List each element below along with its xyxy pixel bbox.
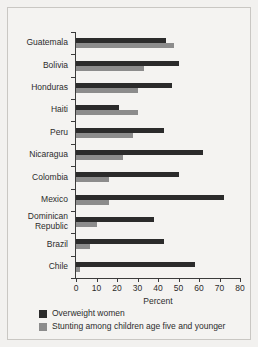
bar-group: Brazil <box>76 233 240 255</box>
category-label: Guatemala <box>0 38 68 48</box>
bar-stunting <box>76 267 80 272</box>
bar-group: Haiti <box>76 99 240 121</box>
bar-group: Mexico <box>76 189 240 211</box>
category-label: Colombia <box>0 173 68 183</box>
category-label: Honduras <box>0 83 68 93</box>
legend-item: Stunting among children age five and you… <box>39 321 249 334</box>
y-tick <box>71 233 76 234</box>
bar-group: Dominican Republic <box>76 211 240 233</box>
y-tick <box>71 32 76 33</box>
x-tick-60 <box>199 278 200 282</box>
bar-stunting <box>76 88 138 93</box>
y-tick <box>71 189 76 190</box>
bar-group: Bolivia <box>76 54 240 76</box>
legend-label: Stunting among children age five and you… <box>52 321 225 332</box>
category-label: Nicaragua <box>0 150 68 160</box>
y-tick <box>71 278 76 279</box>
legend-swatch-overweight <box>39 310 47 318</box>
x-tick-30 <box>138 278 139 282</box>
chart-figure: GuatemalaBoliviaHondurasHaitiPeruNicarag… <box>0 0 258 347</box>
x-tick-0 <box>76 278 77 282</box>
bar-stunting <box>76 110 138 115</box>
bar-stunting <box>76 200 109 205</box>
y-tick <box>71 256 76 257</box>
category-label: Mexico <box>0 195 68 205</box>
chart-legend: Overweight womenStunting among children … <box>39 308 249 334</box>
category-label: Bolivia <box>0 61 68 71</box>
bar-group: Honduras <box>76 77 240 99</box>
category-label: Haiti <box>0 105 68 115</box>
legend-item: Overweight women <box>39 308 249 321</box>
y-tick <box>71 54 76 55</box>
bar-group: Peru <box>76 121 240 143</box>
y-tick <box>71 121 76 122</box>
plot-area: GuatemalaBoliviaHondurasHaitiPeruNicarag… <box>76 32 240 278</box>
bar-group: Guatemala <box>76 32 240 54</box>
bar-group: Chile <box>76 256 240 278</box>
category-label: Peru <box>0 128 68 138</box>
bar-group: Nicaragua <box>76 144 240 166</box>
y-tick <box>71 166 76 167</box>
bar-stunting <box>76 66 144 71</box>
bar-overweight <box>76 262 195 267</box>
chart-frame: GuatemalaBoliviaHondurasHaitiPeruNicarag… <box>7 7 251 340</box>
legend-swatch-stunting <box>39 323 47 331</box>
x-tick-20 <box>117 278 118 282</box>
bar-group: Colombia <box>76 166 240 188</box>
bar-stunting <box>76 155 123 160</box>
category-label: Brazil <box>0 240 68 250</box>
x-tick-50 <box>179 278 180 282</box>
y-tick <box>71 77 76 78</box>
x-tick-label-80: 80 <box>228 283 252 293</box>
bar-stunting <box>76 244 90 249</box>
y-tick <box>71 211 76 212</box>
bar-stunting <box>76 177 109 182</box>
x-tick-10 <box>97 278 98 282</box>
x-tick-80 <box>240 278 241 282</box>
x-tick-40 <box>158 278 159 282</box>
y-tick <box>71 144 76 145</box>
y-tick <box>71 99 76 100</box>
x-axis-title: Percent <box>76 296 240 306</box>
category-label: Chile <box>0 262 68 272</box>
bar-stunting <box>76 222 97 227</box>
category-label: Dominican Republic <box>0 212 68 231</box>
bar-stunting <box>76 43 174 48</box>
legend-label: Overweight women <box>52 308 125 319</box>
bar-stunting <box>76 133 133 138</box>
x-tick-70 <box>220 278 221 282</box>
